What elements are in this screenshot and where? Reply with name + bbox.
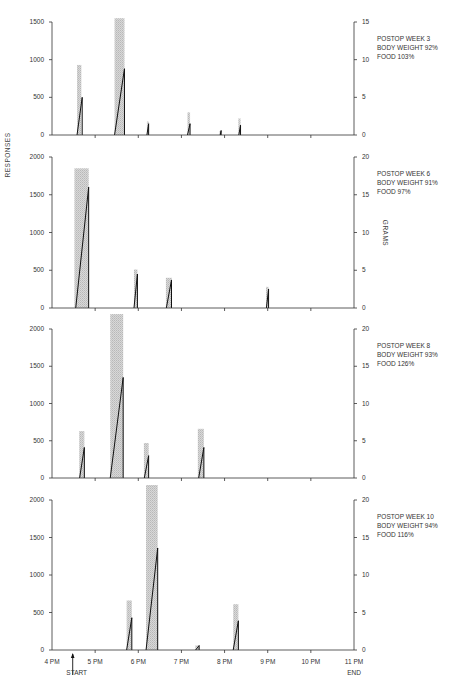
panel-title: POSTOP WEEK 3 xyxy=(377,35,431,42)
chart-panel-week-10: 050010001500200005101520POSTOP WEEK 10BO… xyxy=(30,485,438,653)
left-tick-label: 1000 xyxy=(30,56,45,63)
body-weight-label: BODY WEIGHT 92% xyxy=(377,44,438,51)
right-tick-label: 15 xyxy=(362,362,370,369)
right-tick-label: 15 xyxy=(362,191,370,198)
right-tick-label: 20 xyxy=(362,153,370,160)
right-tick-label: 5 xyxy=(362,266,366,273)
food-label: FOOD 97% xyxy=(377,188,411,195)
chart-panel-week-6: 050010001500200005101520POSTOP WEEK 6BOD… xyxy=(30,153,438,311)
left-tick-label: 1500 xyxy=(30,191,45,198)
right-tick-label: 0 xyxy=(362,474,366,481)
left-tick-label: 1000 xyxy=(30,229,45,236)
right-tick-label: 5 xyxy=(362,93,366,100)
right-tick-label: 10 xyxy=(362,400,370,407)
end-label: END xyxy=(347,669,361,676)
chart-panel-week-8: 050010001500200005101520POSTOP WEEK 8BOD… xyxy=(30,314,438,481)
right-tick-label: 5 xyxy=(362,437,366,444)
response-line xyxy=(220,130,221,135)
left-tick-label: 0 xyxy=(40,474,44,481)
right-tick-label: 15 xyxy=(362,18,370,25)
right-tick-label: 15 xyxy=(362,534,370,541)
body-weight-label: BODY WEIGHT 91% xyxy=(377,179,438,186)
right-tick-label: 0 xyxy=(362,646,366,653)
left-tick-label: 0 xyxy=(40,304,44,311)
start-label: START xyxy=(66,669,87,676)
right-tick-label: 0 xyxy=(362,131,366,138)
x-tick-label: 9 PM xyxy=(260,658,275,665)
right-axis-title: GRAMS xyxy=(382,220,389,247)
left-tick-label: 1000 xyxy=(30,400,45,407)
x-tick-label: 6 PM xyxy=(131,658,146,665)
left-tick-label: 1500 xyxy=(30,534,45,541)
food-bar xyxy=(74,168,88,308)
left-axis-title: RESPONSES xyxy=(4,132,11,177)
left-tick-label: 500 xyxy=(33,437,44,444)
body-weight-label: BODY WEIGHT 93% xyxy=(377,351,438,358)
right-tick-label: 5 xyxy=(362,609,366,616)
x-tick-label: 8 PM xyxy=(217,658,232,665)
right-tick-label: 20 xyxy=(362,325,370,332)
x-tick-label: 4 PM xyxy=(44,658,59,665)
right-tick-label: 10 xyxy=(362,571,370,578)
left-tick-label: 500 xyxy=(33,93,44,100)
left-tick-label: 2000 xyxy=(30,153,45,160)
left-tick-label: 2000 xyxy=(30,496,45,503)
left-tick-label: 0 xyxy=(40,131,44,138)
left-tick-label: 0 xyxy=(40,646,44,653)
right-tick-label: 0 xyxy=(362,304,366,311)
panel-title: POSTOP WEEK 10 xyxy=(377,513,434,520)
right-tick-label: 10 xyxy=(362,56,370,63)
x-tick-label: 10 PM xyxy=(301,658,320,665)
left-tick-label: 1500 xyxy=(30,18,45,25)
time-axis: 4 PM5 PM6 PM7 PM8 PM9 PM10 PM11 PMSTARTE… xyxy=(44,653,363,676)
left-tick-label: 500 xyxy=(33,609,44,616)
right-tick-label: 10 xyxy=(362,229,370,236)
chart-panel-week-3: 050010001500051015POSTOP WEEK 3BODY WEIG… xyxy=(30,18,438,138)
food-bar xyxy=(77,65,81,135)
food-label: FOOD 116% xyxy=(377,531,414,538)
left-tick-label: 1000 xyxy=(30,571,45,578)
panel-title: POSTOP WEEK 6 xyxy=(377,170,431,177)
left-tick-label: 1500 xyxy=(30,362,45,369)
food-label: FOOD 126% xyxy=(377,360,414,367)
panel-title: POSTOP WEEK 8 xyxy=(377,342,431,349)
left-tick-label: 2000 xyxy=(30,325,45,332)
x-tick-label: 11 PM xyxy=(345,658,363,665)
left-tick-label: 500 xyxy=(33,266,44,273)
right-tick-label: 20 xyxy=(362,496,370,503)
x-tick-label: 5 PM xyxy=(88,658,103,665)
food-label: FOOD 103% xyxy=(377,53,414,60)
x-tick-label: 7 PM xyxy=(174,658,189,665)
responses-grams-chart: 050010001500051015POSTOP WEEK 3BODY WEIG… xyxy=(0,0,454,693)
body-weight-label: BODY WEIGHT 94% xyxy=(377,522,438,529)
